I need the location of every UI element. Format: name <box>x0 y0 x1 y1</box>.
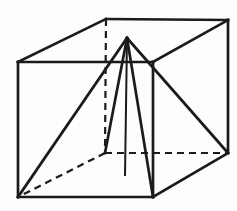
cube-edge-back-left-vertical <box>105 19 106 153</box>
cube-edge-top-back <box>106 19 228 20</box>
cube-edge-bottom-right <box>153 153 228 197</box>
pyramid-in-cube-diagram <box>0 0 237 211</box>
cube-edge-top-left <box>18 19 106 62</box>
cube-edge-top-right <box>153 20 228 62</box>
cube-edge-bottom-left <box>18 153 105 197</box>
pyramid-height-axis <box>125 38 127 176</box>
diagram-canvas <box>0 0 237 211</box>
